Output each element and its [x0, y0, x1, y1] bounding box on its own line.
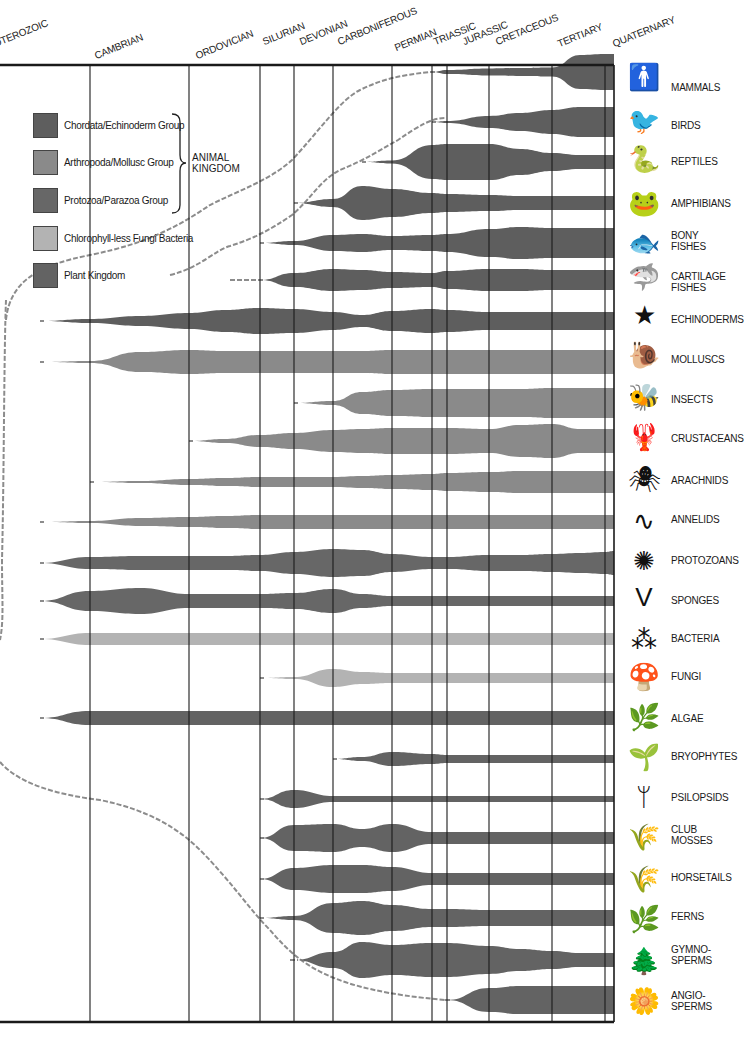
- legend-item: Protozoa/Parazoa Group: [33, 187, 168, 213]
- pinecone-icon: 🌲: [624, 946, 664, 976]
- band-psilopsids: [260, 790, 614, 808]
- legend-label: Arthropoda/Mollusc Group: [64, 157, 174, 168]
- fern-icon: 🌿: [624, 904, 664, 934]
- legend-label: Protozoa/Parazoa Group: [64, 195, 168, 206]
- row-label: HORSETAILS: [671, 872, 732, 883]
- row-label: BIRDS: [671, 120, 701, 131]
- row-label: ECHINODERMS: [671, 314, 744, 325]
- human-silhouette-icon: 🚹: [624, 62, 664, 92]
- row-label: FERNS: [671, 911, 704, 922]
- row-label: MOLLUSCS: [671, 354, 724, 365]
- row-label: INSECTS: [671, 394, 713, 405]
- spider-icon: 🕷: [624, 464, 664, 494]
- snake-icon: 🐍: [624, 144, 664, 174]
- shark-icon: 🦈: [624, 262, 664, 292]
- seaweed-icon: 🌿: [624, 702, 664, 732]
- psilopsid-icon: ᛘ: [624, 782, 664, 812]
- starfish-icon: ★: [624, 300, 664, 330]
- worm-icon: ∿: [624, 506, 664, 536]
- snail-icon: 🐌: [624, 340, 664, 370]
- band-annelids: [40, 515, 614, 529]
- legend-swatch: [33, 150, 58, 175]
- animal-kingdom-label: ANIMAL KINGDOM: [192, 152, 240, 174]
- row-label: CARTILAGE FISHES: [671, 271, 726, 293]
- row-label: BONY FISHES: [671, 230, 706, 252]
- legend-label: Chordata/Echinoderm Group: [64, 120, 184, 131]
- row-label: AMPHIBIANS: [671, 198, 731, 209]
- band-insects: [294, 388, 614, 418]
- flower-icon: 🌼: [624, 986, 664, 1016]
- band-horsetails: [260, 865, 614, 893]
- row-label: REPTILES: [671, 156, 718, 167]
- band-angiosperms: [447, 986, 614, 1014]
- band-echinoderms: [40, 308, 614, 334]
- row-label: MAMMALS: [671, 82, 720, 93]
- club-moss-icon: 🌾: [624, 822, 664, 852]
- horsetail-icon: 🌾: [624, 864, 664, 894]
- legend-item: Chlorophyll-less Fungi Bacteria: [33, 225, 193, 251]
- row-label: PSILOPSIDS: [671, 792, 728, 803]
- band-bony-fishes: [260, 227, 614, 259]
- legend-swatch: [33, 188, 58, 213]
- row-label: ANNELIDS: [671, 514, 719, 525]
- row-label: CRUSTACEANS: [671, 433, 744, 444]
- legend-item: Arthropoda/Mollusc Group: [33, 149, 174, 175]
- row-label: FUNGI: [671, 671, 701, 682]
- row-label: ANGIO- SPERMS: [671, 990, 712, 1012]
- frog-icon: 🐸: [624, 188, 664, 218]
- band-arachnids: [90, 471, 614, 493]
- bird-icon: 🐦: [624, 106, 664, 136]
- band-cartilage-fishes: [260, 269, 614, 291]
- row-label: PROTOZOANS: [671, 555, 739, 566]
- row-label: BACTERIA: [671, 633, 719, 644]
- row-label: ARACHNIDS: [671, 475, 728, 486]
- legend-item: Plant Kingdom: [33, 262, 125, 288]
- band-reptiles: [362, 144, 614, 180]
- bacteria-icon: ⁂: [624, 624, 664, 654]
- legend-label: Plant Kingdom: [64, 270, 125, 281]
- band-sponges: [40, 588, 614, 614]
- ancestry-trunk: [0, 300, 6, 640]
- band-bryophytes: [333, 752, 614, 766]
- lobster-icon: 🦞: [624, 422, 664, 452]
- row-label: ALGAE: [671, 713, 703, 724]
- legend-swatch: [33, 263, 58, 288]
- band-bacteria: [40, 633, 614, 645]
- band-mammals: [432, 54, 614, 90]
- band-crustaceans: [189, 424, 614, 458]
- band-algae: [40, 711, 614, 725]
- mushroom-icon: 🍄: [624, 662, 664, 692]
- legend-item: Chordata/Echinoderm Group: [33, 112, 184, 138]
- row-label: CLUB MOSSES: [671, 824, 713, 846]
- legend-swatch: [33, 113, 58, 138]
- band-molluscs: [40, 350, 614, 374]
- bee-icon: 🐝: [624, 382, 664, 412]
- legend-swatch: [33, 226, 58, 251]
- sponge-icon: V: [624, 582, 664, 612]
- band-amphibians: [294, 186, 614, 220]
- row-label: SPONGES: [671, 595, 719, 606]
- amoeba-icon: ✺: [624, 546, 664, 576]
- legend-label: Chlorophyll-less Fungi Bacteria: [64, 233, 193, 244]
- fish-icon: 🐟: [624, 228, 664, 258]
- band-gymnosperms: [294, 942, 614, 978]
- band-club-mosses: [260, 824, 614, 852]
- row-label: GYMNO- SPERMS: [671, 944, 712, 966]
- band-ferns: [260, 901, 614, 935]
- band-protozoans: [40, 549, 614, 577]
- moss-icon: 🌱: [624, 742, 664, 772]
- band-birds: [432, 107, 614, 137]
- band-fungi: [260, 669, 614, 687]
- row-label: BRYOPHYTES: [671, 751, 737, 762]
